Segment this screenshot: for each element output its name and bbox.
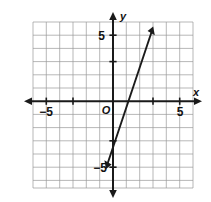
y-axis-label: y — [119, 10, 127, 22]
y-tick-label-pos5: 5 — [98, 29, 105, 43]
y-axis-top-arrowhead — [109, 12, 117, 20]
x-axis-label: x — [192, 86, 200, 98]
plotted-line — [104, 27, 154, 170]
y-axis — [109, 12, 117, 198]
y-axis-bottom-arrowhead — [109, 190, 117, 198]
coordinate-plane: y x O −5 5 5 −5 — [0, 0, 211, 202]
origin-label: O — [102, 104, 111, 116]
x-tick-label-pos5: 5 — [177, 105, 184, 119]
graph-screenshot: y x O −5 5 5 −5 — [0, 0, 211, 202]
x-axis-right-arrowhead — [194, 97, 202, 105]
y-tick-label-neg5: −5 — [93, 161, 107, 175]
x-tick-label-neg5: −5 — [39, 105, 53, 119]
x-axis-left-arrowhead — [24, 97, 32, 105]
